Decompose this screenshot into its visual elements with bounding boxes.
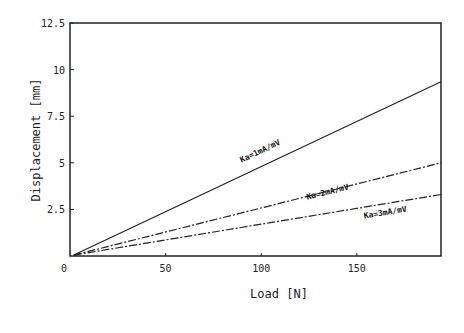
x-axis-title: Load [N] (250, 287, 308, 301)
series-line (74, 194, 441, 255)
x-tick-label: 100 (252, 263, 270, 274)
series-annotation: Ka=3mA/mV (363, 205, 407, 221)
line-chart: 2.557.51012.5 050100150 Ka=1mA/mVKa=2mA/… (0, 0, 464, 333)
y-tick-label: 10 (53, 65, 65, 76)
series-annotation: Ka=2mA/mV (305, 182, 349, 201)
y-tick-label: 5 (59, 158, 65, 169)
series-lines (74, 82, 441, 255)
y-axis-title: Displacement [mm] (29, 79, 43, 202)
y-tick-label: 7.5 (47, 111, 65, 122)
series-line (74, 82, 441, 255)
y-tick-label: 12.5 (41, 18, 65, 29)
plot-frame (70, 23, 441, 256)
y-axis-ticks: 2.557.51012.5 (41, 18, 74, 215)
y-tick-label: 2.5 (47, 204, 65, 215)
x-tick-label: 150 (348, 263, 366, 274)
x-tick-label: 0 (61, 263, 67, 274)
series-annotations: Ka=1mA/mVKa=2mA/mVKa=3mA/mV (239, 138, 408, 221)
x-tick-label: 50 (160, 263, 172, 274)
